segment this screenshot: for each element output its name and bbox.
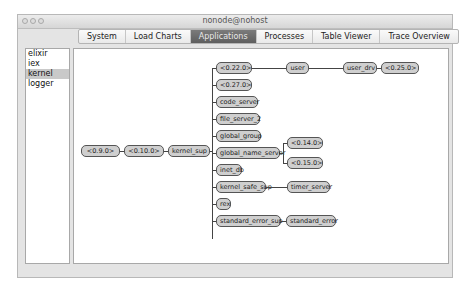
app-item-kernel[interactable]: kernel (26, 69, 69, 79)
tree-node-master[interactable]: <0.10.0> (124, 145, 164, 157)
app-item-elixir[interactable]: elixir (26, 49, 69, 59)
tree-node-child[interactable]: <0.25.0> (381, 62, 419, 74)
tree-node-child[interactable]: <0.14.0> (287, 137, 323, 149)
tree-edge (283, 143, 284, 164)
window-title: nonode@nohost (18, 16, 452, 25)
tree-node-global-name-server[interactable]: global_name_server (216, 147, 280, 159)
observer-window: nonode@nohost System Load Charts Applica… (17, 14, 453, 278)
tree-node-child[interactable]: <0.15.0> (287, 157, 323, 169)
tab-applications[interactable]: Applications (191, 30, 257, 43)
app-item-logger[interactable]: logger (26, 79, 69, 89)
tree-node-user[interactable]: user (286, 62, 309, 74)
tree-edge (309, 68, 343, 69)
app-item-iex[interactable]: iex (26, 59, 69, 69)
tree-node-global-group[interactable]: global_group (216, 130, 261, 142)
tree-node-kernel-sup[interactable]: kernel_sup (168, 145, 210, 157)
tab-table-viewer[interactable]: Table Viewer (313, 30, 380, 43)
tree-node-file-server[interactable]: file_server_2 (216, 113, 260, 125)
tree-node-timer-server[interactable]: timer_server (287, 181, 330, 193)
tree-node-standard-error-sup[interactable]: standard_error_sup (216, 215, 281, 227)
tree-node-user-drv[interactable]: user_drv (343, 62, 377, 74)
title-bar: nonode@nohost (18, 15, 452, 29)
tab-bar: System Load Charts Applications Processe… (78, 29, 459, 44)
tab-load-charts[interactable]: Load Charts (126, 30, 191, 43)
tree-node-standard-error[interactable]: standard_error (286, 215, 336, 227)
tab-system[interactable]: System (79, 30, 126, 43)
tree-node-root[interactable]: <0.9.0> (81, 145, 120, 157)
process-tree-panel: <0.9.0> <0.10.0> kernel_sup <0.22.0> use… (73, 48, 449, 264)
tree-node-kernel-safe-sup[interactable]: kernel_safe_sup (216, 181, 266, 193)
tree-edge (266, 187, 287, 188)
tree-node-child[interactable]: <0.22.0> (216, 62, 252, 74)
tab-trace-overview[interactable]: Trace Overview (380, 30, 457, 43)
tab-processes[interactable]: Processes (257, 30, 313, 43)
tree-edge (252, 68, 286, 69)
tree-node-rex[interactable]: rex (216, 198, 231, 210)
tree-node-code-server[interactable]: code_server (216, 96, 258, 108)
application-list[interactable]: elixir iex kernel logger (25, 48, 70, 264)
tree-node-child[interactable]: <0.27.0> (216, 79, 252, 91)
tree-node-inet-db[interactable]: inet_db (216, 164, 242, 176)
